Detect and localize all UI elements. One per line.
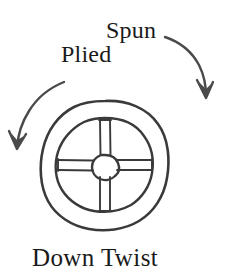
down-twist-caption: Down Twist (32, 245, 158, 270)
plied-arrow (9, 82, 64, 150)
down-twist-diagram: Spun Plied Down Twist (0, 0, 228, 276)
plied-label: Plied (61, 42, 111, 66)
whorl-spoke-south (99, 177, 111, 211)
spindle-whorl-group (41, 101, 169, 230)
whorl-spoke-east (117, 159, 152, 171)
spun-label: Spun (106, 18, 156, 42)
whorl-inner-circle (56, 118, 153, 212)
spun-arrow (165, 37, 213, 99)
whorl-hub-circle (92, 155, 119, 180)
whorl-spoke-west (58, 159, 93, 171)
whorl-spoke-north (99, 120, 111, 155)
